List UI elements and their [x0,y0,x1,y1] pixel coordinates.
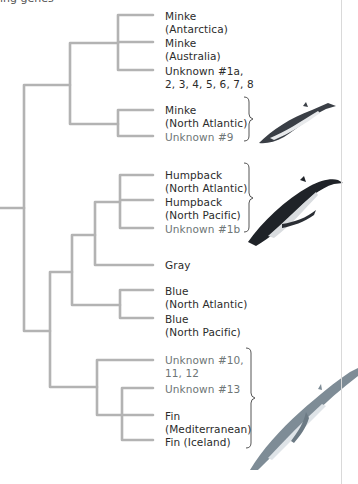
minke-clade-a [118,15,153,70]
braces [244,97,255,448]
tree-branches [0,15,153,440]
fin-clade [122,388,153,440]
leaf-humpback-north-atlantic: Humpback (North Atlantic) [165,169,247,195]
leaf-blue-north-pacific: Blue (North Pacific) [165,313,241,339]
humpback-whale-icon [248,176,343,246]
root-node [24,85,70,331]
leaf-humpback-north-pacific: Humpback (North Pacific) [165,196,241,222]
leaf-unknown-1b: Unknown #1b [165,223,240,236]
minke-node [70,43,118,124]
leaf-minke-australia: Minke (Australia) [165,37,221,63]
leaf-minke-antarctica: Minke (Antarctica) [165,10,228,36]
blue-clade [120,290,153,318]
leaf-unknown-13: Unknown #13 [165,383,240,396]
leaf-unknown-9: Unknown #9 [165,131,234,144]
node-50 [50,272,97,387]
node-95 [95,202,153,265]
leaf-gray: Gray [165,259,191,272]
page-margin-rule [341,0,342,484]
leaf-blue-north-atlantic: Blue (North Atlantic) [165,285,247,311]
leaf-minke-north-atlantic: Minke (North Atlantic) [165,104,247,130]
leaf-unknown-10-12: Unknown #10, 11, 12 [165,354,244,380]
leaf-fin-iceland: Fin (Iceland) [165,436,231,449]
leaf-fin-mediterranean: Fin (Mediterranean) [165,410,251,436]
minke-clade-b [118,110,153,136]
humpback-clade [120,175,153,228]
minke-whale-icon [259,102,336,143]
leaf-unknown-1a-8: Unknown #1a, 2, 3, 4, 5, 6, 7, 8 [165,65,254,91]
